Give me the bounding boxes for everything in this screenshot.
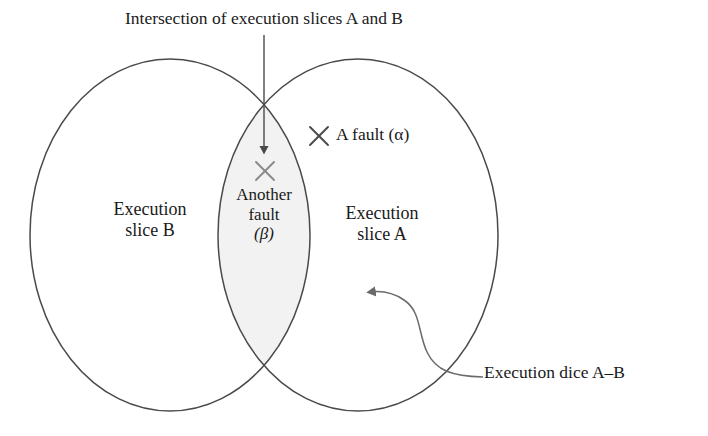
label-a-fault: A fault (α) [336,124,409,144]
a-fault-marker-icon [310,127,328,145]
label-execution-slice-a: Execution slice A [346,203,419,245]
diagram-title: Intersection of execution slices A and B [125,8,403,28]
venn-diagram-figure: Intersection of execution slices A and B… [0,0,708,436]
label-another-fault-line1: Another [236,185,292,205]
label-another-fault-symbol: (β) [236,224,292,244]
label-execution-slice-a-line1: Execution [346,203,419,224]
dice-pointer-arrow [371,292,483,377]
label-execution-slice-a-line2: slice A [346,224,419,245]
label-another-fault-line2: fault [236,205,292,225]
label-execution-slice-b: Execution slice B [114,199,187,241]
label-execution-slice-b-line1: Execution [114,199,187,220]
label-another-fault: Another fault (β) [236,185,292,244]
label-execution-slice-b-line2: slice B [114,220,187,241]
label-execution-dice: Execution dice A–B [484,362,625,382]
